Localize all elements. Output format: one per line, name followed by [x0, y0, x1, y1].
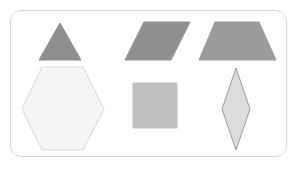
shape-rhombus[interactable] — [222, 68, 250, 150]
shape-gallery-stage — [0, 0, 298, 174]
shape-triangle[interactable] — [39, 23, 81, 60]
shape-trapezoid[interactable] — [199, 22, 276, 60]
shape-square[interactable] — [133, 83, 177, 128]
shape-parallelogram[interactable] — [125, 22, 190, 60]
shapes-canvas — [0, 0, 298, 174]
shape-hexagon[interactable] — [22, 67, 104, 150]
